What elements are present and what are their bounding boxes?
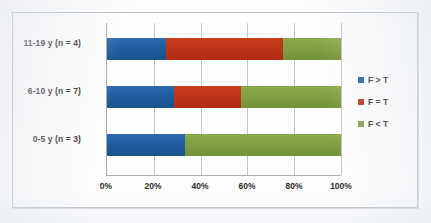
category-label-11-19y: 11-19 y (n = 4): [0, 38, 81, 48]
x-tick-label: 100%: [330, 181, 352, 191]
scanned-page: 11-19 y (n = 4) 6-10 y (n = 7) 0-5 y (n …: [0, 0, 431, 223]
x-tick-label: 80%: [285, 181, 302, 191]
chart-frame: 11-19 y (n = 4) 6-10 y (n = 7) 0-5 y (n …: [12, 12, 418, 208]
bar-segment[interactable]: [107, 134, 185, 156]
bar-segment[interactable]: [283, 38, 342, 60]
x-tick-label: 40%: [191, 181, 208, 191]
bar-segment[interactable]: [107, 38, 166, 60]
legend-swatch-icon: [358, 99, 364, 105]
legend-label: F < T: [368, 119, 388, 129]
x-tick-label: 60%: [238, 181, 255, 191]
legend-label: F > T: [368, 75, 388, 85]
legend-label: F = T: [368, 97, 388, 107]
bar-row: [107, 86, 341, 108]
bar-row: [107, 134, 341, 156]
legend-swatch-icon: [358, 77, 364, 83]
x-tick-label: 20%: [144, 181, 161, 191]
category-label-0-5y: 0-5 y (n = 3): [0, 134, 81, 144]
legend-item-f-greater-t[interactable]: F > T: [358, 75, 388, 85]
legend-item-f-equals-t[interactable]: F = T: [358, 97, 388, 107]
gridline-100: [341, 23, 342, 175]
legend-swatch-icon: [358, 121, 364, 127]
bar-segment[interactable]: [185, 134, 341, 156]
legend-item-f-less-t[interactable]: F < T: [358, 119, 388, 129]
legend: F > T F = T F < T: [358, 75, 388, 141]
bar-segment[interactable]: [166, 38, 283, 60]
bar-row: [107, 38, 341, 60]
x-tick-label: 0%: [100, 181, 112, 191]
bar-segment[interactable]: [107, 86, 174, 108]
bar-segment[interactable]: [174, 86, 241, 108]
category-label-6-10y: 6-10 y (n = 7): [0, 86, 81, 96]
bar-segment[interactable]: [241, 86, 341, 108]
plot-area: [106, 23, 341, 176]
